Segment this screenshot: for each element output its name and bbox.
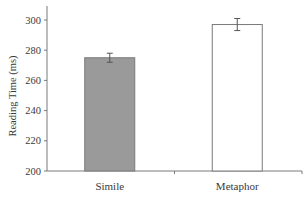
y-tick-label: 280 (25, 45, 41, 56)
y-tick-label: 300 (25, 15, 41, 26)
category-labels: SimileMetaphor (95, 180, 259, 192)
y-tick-label: 260 (25, 75, 41, 86)
y-tick-label: 240 (25, 105, 41, 116)
category-label-metaphor: Metaphor (216, 180, 259, 192)
bar-chart: 200220240260280300 SimileMetaphor Readin… (0, 0, 307, 200)
y-axis: 200220240260280300 (25, 6, 47, 177)
y-tick-label: 200 (25, 166, 41, 177)
bar-metaphor (212, 25, 262, 171)
bars (85, 18, 263, 171)
bar-simile (85, 58, 135, 171)
y-tick-label: 220 (25, 135, 41, 146)
y-axis-title: Reading Time (ms) (7, 55, 19, 137)
category-label-simile: Simile (95, 180, 124, 192)
